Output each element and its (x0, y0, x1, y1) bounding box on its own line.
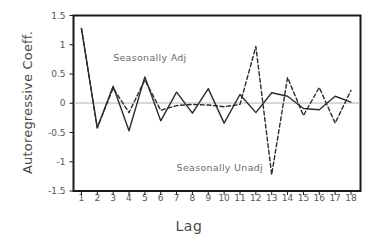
chart-figure: Autoregressive Coeff. Lag -1.5-1-0.500.5… (0, 0, 378, 246)
series-annotation-seasonally-adj: Seasonally Adj (113, 52, 186, 63)
plot-area (0, 0, 378, 246)
series-annotation-seasonally-unadj: Seasonally Unadj (177, 162, 264, 173)
